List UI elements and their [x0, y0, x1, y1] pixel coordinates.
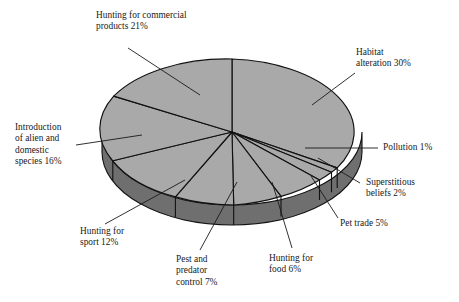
label-hunting-for-food: Hunting for food 6% — [269, 253, 349, 276]
pie-chart-figure: Hunting for commercial products 21% Habi… — [0, 0, 459, 302]
label-pet-trade: Pet trade 5% — [340, 218, 435, 229]
label-superstitious-beliefs: Superstitious beliefs 2% — [366, 177, 459, 200]
label-habitat-alteration: Habitat alteration 30% — [356, 47, 456, 70]
label-pollution: Pollution 1% — [383, 142, 459, 153]
label-hunting-for-commercial-products: Hunting for commercial products 21% — [96, 10, 246, 33]
label-pest-and-predator-control: Pest and predator control 7% — [176, 254, 254, 288]
label-hunting-for-sport: Hunting for sport 12% — [80, 226, 162, 249]
label-introduction-of-alien-and-domestic-species: Introduction of alien and domestic speci… — [15, 122, 89, 168]
